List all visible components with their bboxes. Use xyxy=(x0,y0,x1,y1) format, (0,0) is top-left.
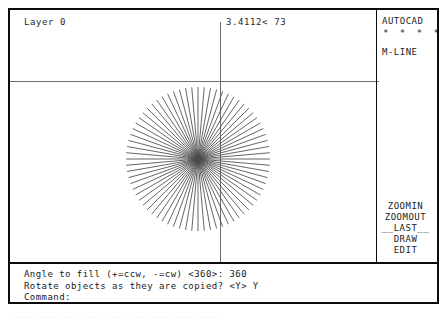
menu-item-last[interactable]: __LAST__ xyxy=(377,223,437,234)
side-menu-items-group: ZOOMIN ZOOMOUT __LAST__ DRAW EDIT xyxy=(377,201,437,256)
menu-item-zoomout[interactable]: ZOOMOUT xyxy=(377,212,437,223)
menu-item-edit[interactable]: EDIT xyxy=(377,245,437,256)
menu-item-draw[interactable]: DRAW xyxy=(377,234,437,245)
command-history-line-1: Angle to fill (+=ccw, -=cw) <360>: 360 xyxy=(24,269,437,281)
page-root: Layer 0 3.4112< 73 AUTOCAD * * * * M-LIN… xyxy=(0,0,447,325)
side-menu-dots: * * * * xyxy=(377,28,437,38)
scan-caption-artifact: ........................................… xyxy=(10,311,300,320)
radial-burst-drawing xyxy=(10,10,379,262)
command-prompt[interactable]: Command: xyxy=(24,292,437,304)
side-menu-current-command[interactable]: M-LINE xyxy=(377,47,437,58)
autocad-screen-frame: Layer 0 3.4112< 73 AUTOCAD * * * * M-LIN… xyxy=(8,8,439,304)
side-menu-panel[interactable]: AUTOCAD * * * * M-LINE ZOOMIN ZOOMOUT __… xyxy=(376,10,437,262)
side-menu-header[interactable]: AUTOCAD xyxy=(377,16,437,27)
graphics-drawing-area[interactable]: Layer 0 3.4112< 73 AUTOCAD * * * * M-LIN… xyxy=(10,10,437,302)
command-history-line-2: Rotate objects as they are copied? <Y> Y xyxy=(24,281,437,293)
command-line-area[interactable]: Angle to fill (+=ccw, -=cw) <360>: 360 R… xyxy=(10,264,437,304)
menu-item-zoomin[interactable]: ZOOMIN xyxy=(377,201,437,212)
